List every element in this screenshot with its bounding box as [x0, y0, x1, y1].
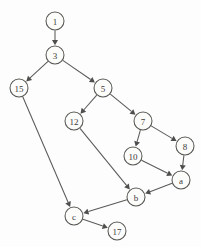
node-label: 15 [15, 84, 25, 94]
graph-node-17[interactable]: 17 [108, 222, 126, 240]
nodes-layer: 13155127810abc17 [10, 12, 194, 240]
graph-node-8[interactable]: 8 [176, 137, 194, 155]
edge-line [110, 94, 131, 111]
graph-node-10[interactable]: 10 [124, 147, 142, 165]
node-label: 10 [129, 152, 139, 162]
edge-7-to-8 [151, 126, 176, 141]
graph-node-15[interactable]: 15 [10, 79, 28, 97]
node-label: 8 [183, 142, 188, 152]
edge-5-to-12 [80, 95, 96, 114]
edge-c-to-17 [83, 219, 108, 229]
edge-7-to-10 [134, 130, 140, 146]
edge-line [84, 95, 97, 110]
edge-line [83, 219, 103, 226]
edge-1-to-3 [52, 31, 58, 46]
directed-graph: 13155127810abc17 [0, 0, 201, 247]
edge-line [80, 128, 127, 185]
node-label: 12 [70, 117, 79, 127]
edge-line [63, 60, 91, 79]
edge-b-to-c [83, 200, 127, 215]
graph-node-b[interactable]: b [127, 188, 145, 206]
edge-line [30, 61, 48, 77]
graph-node-3[interactable]: 3 [46, 46, 64, 64]
edge-8-to-a [180, 155, 186, 170]
edge-15-to-c [23, 97, 71, 207]
edge-3-to-15 [26, 61, 48, 81]
node-label: b [134, 193, 139, 203]
edge-line [151, 126, 172, 138]
arrowhead-icon [134, 141, 140, 147]
edge-a-to-b [145, 183, 172, 194]
graph-node-5[interactable]: 5 [94, 79, 112, 97]
graph-node-7[interactable]: 7 [134, 112, 152, 130]
edge-3-to-5 [63, 60, 95, 82]
edge-line [142, 160, 168, 173]
node-label: 7 [141, 117, 146, 127]
edge-5-to-7 [110, 94, 135, 115]
node-label: 17 [113, 227, 123, 237]
arrowhead-icon [89, 77, 95, 82]
graph-node-12[interactable]: 12 [65, 112, 83, 130]
edge-10-to-a [142, 160, 173, 176]
graph-node-1[interactable]: 1 [46, 12, 64, 30]
node-label: 3 [53, 51, 58, 61]
node-label: c [72, 212, 76, 222]
edge-12-to-b [80, 128, 130, 189]
graph-node-a[interactable]: a [172, 171, 190, 189]
node-label: a [179, 176, 183, 186]
edge-line [183, 155, 184, 165]
edge-line [88, 200, 127, 212]
edge-line [137, 130, 140, 141]
graph-node-c[interactable]: c [65, 207, 83, 225]
arrowhead-icon [180, 165, 186, 171]
edge-line [150, 183, 172, 191]
node-label: 1 [53, 17, 58, 27]
node-label: 5 [101, 84, 106, 94]
arrowhead-icon [52, 40, 58, 45]
diagram-canvas: 13155127810abc17 [0, 0, 201, 247]
edge-line [23, 97, 68, 202]
